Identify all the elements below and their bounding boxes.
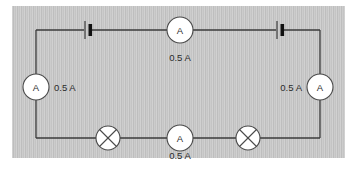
ammeter-left-symbol: A [33,82,40,93]
ammeter-top-center: A [167,17,193,43]
ammeter-bottom-center-symbol: A [177,133,184,144]
ammeter-bottom-center-reading: 0.5 A [169,150,191,161]
circuit-svg: A 0.5 A A 0.5 A A 0.5 A A 0.5 A [0,0,357,174]
ammeter-right-symbol: A [317,82,324,93]
circuit-diagram-screenshot: A 0.5 A A 0.5 A A 0.5 A A 0.5 A [0,0,357,174]
cell-top-left [85,21,92,39]
lamp-left [96,126,120,150]
ammeter-bottom-center: A [167,125,193,151]
ammeter-top-center-reading: 0.5 A [169,52,191,63]
ammeter-top-center-symbol: A [177,25,184,36]
cell-top-right [277,21,284,39]
cell-top-left-short-plate [89,24,93,36]
cell-top-right-short-plate [281,24,285,36]
ammeter-right: A [307,74,333,100]
lamp-right [236,126,260,150]
ammeter-left-reading: 0.5 A [54,82,76,93]
ammeter-right-reading: 0.5 A [280,82,302,93]
ammeter-left: A [23,74,49,100]
